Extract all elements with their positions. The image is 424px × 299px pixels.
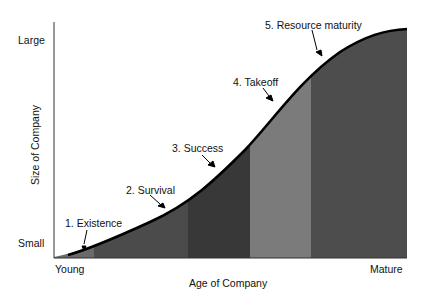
stage-band-5 [311,0,407,258]
arrow-head-icon [316,50,322,56]
stage-label-2: 2. Survival [126,184,175,196]
stage-label-1: 1. Existence [65,217,122,229]
x-axis-title: Age of Company [189,277,267,289]
stage-label-3: 3. Success [172,142,223,154]
x-axis-right-label: Mature [370,263,403,275]
y-axis-title: Size of Company [29,105,41,185]
stage-label-5: 5. Resource maturity [265,19,362,31]
y-axis-top-label: Large [18,34,45,46]
arrow-head-icon [266,95,273,101]
stage-band-3 [188,0,250,258]
x-axis-left-label: Young [55,263,84,275]
stage-band-4 [250,0,311,258]
y-axis-bottom-label: Small [18,237,44,249]
stage-label-4: 4. Takeoff [233,76,278,88]
